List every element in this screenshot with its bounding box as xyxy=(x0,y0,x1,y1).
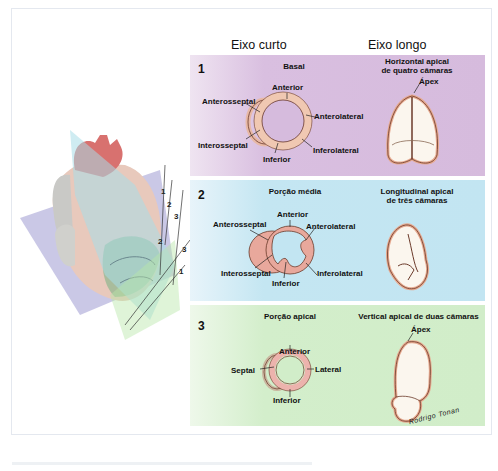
panel-basal: 1 Basal Horizontal apical de quatro câma… xyxy=(190,55,485,176)
plane-label-1b: 1 xyxy=(179,267,183,276)
plane-label-1: 1 xyxy=(161,187,165,196)
plane-label-2: 2 xyxy=(167,200,171,209)
four-chamber-view xyxy=(190,55,485,176)
label-apex: Ápex xyxy=(411,325,431,334)
heart-planes-illustration xyxy=(15,125,195,345)
three-chamber-view xyxy=(190,180,485,301)
panel-apical: 3 Porção apical Vertical apical de duas … xyxy=(190,305,485,426)
short-axis-heading: Eixo curto xyxy=(231,38,287,52)
caption-placeholder xyxy=(12,462,312,465)
long-axis-heading: Eixo longo xyxy=(368,38,426,52)
plane-label-2b: 2 xyxy=(158,237,162,246)
plane-label-3: 3 xyxy=(174,212,178,221)
label-apex: Ápex xyxy=(419,77,439,86)
plane-label-3b: 3 xyxy=(182,245,186,254)
two-chamber-view xyxy=(190,305,485,426)
panel-mid: 2 Porção média Longitudinal apical de tr… xyxy=(190,180,485,301)
